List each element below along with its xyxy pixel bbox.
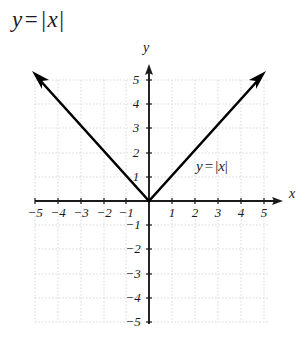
y-tick-label: 5: [128, 72, 144, 88]
annotation-bar-close: |: [225, 158, 228, 174]
y-tick-label: −1: [122, 217, 144, 233]
curve-annotation: y=|x|: [196, 158, 228, 175]
x-tick-label: −4: [48, 205, 68, 221]
x-tick-label: 2: [187, 205, 203, 221]
y-tick-label: 4: [128, 96, 144, 112]
x-axis: [35, 197, 283, 205]
graph-canvas: [0, 0, 301, 349]
y-tick-label: 2: [128, 145, 144, 161]
x-tick-label: −5: [25, 205, 45, 221]
annotation-lhs: y: [196, 158, 203, 174]
y-tick-label: 3: [128, 120, 144, 136]
x-tick-label: −3: [71, 205, 91, 221]
y-tick-label: −2: [122, 241, 144, 257]
x-tick-label: 3: [210, 205, 226, 221]
y-tick-label: −5: [122, 314, 144, 330]
x-tick-label: 1: [164, 205, 180, 221]
y-tick-label: −3: [122, 266, 144, 282]
y-tick-label: −4: [122, 290, 144, 306]
x-tick-label: −2: [94, 205, 114, 221]
x-axis-label: x: [289, 186, 295, 202]
annotation-arg: x: [218, 158, 225, 174]
x-tick-label: 5: [256, 205, 272, 221]
x-tick-label: 4: [233, 205, 249, 221]
y-axis-label: y: [143, 40, 149, 56]
y-axis: [145, 64, 153, 324]
annotation-equals: =: [203, 158, 215, 174]
y-tick-label: 1: [128, 169, 144, 185]
